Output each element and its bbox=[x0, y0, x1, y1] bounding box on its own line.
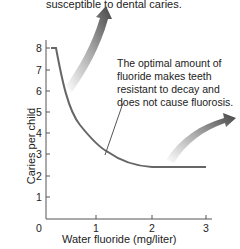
x-axis-label: Water fluoride (mg/liter) bbox=[62, 233, 177, 245]
y-tick-label: 7 bbox=[36, 64, 42, 76]
y-tick-label: 1 bbox=[36, 191, 42, 203]
y-tick-label: 8 bbox=[36, 42, 42, 54]
y-tick-label: 6 bbox=[36, 85, 42, 97]
x-tick-label: 0 bbox=[36, 222, 42, 234]
y-axis-label: Caries per child bbox=[25, 101, 37, 191]
x-ticks bbox=[96, 215, 206, 219]
arrow-up-icon bbox=[66, 6, 112, 92]
annotation-pointer bbox=[105, 103, 123, 155]
y-ticks bbox=[46, 48, 50, 197]
arrow-up-right-icon bbox=[166, 113, 236, 163]
x-tick-label: 3 bbox=[203, 222, 209, 234]
